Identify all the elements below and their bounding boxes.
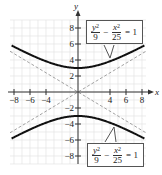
callout-pointer-bottom <box>105 127 116 142</box>
equation-label-bottom: y2 9 − x2 25 = 1 <box>87 143 144 167</box>
svg-text:6: 6 <box>70 39 75 49</box>
svg-text:4: 4 <box>108 95 113 105</box>
x-axis-label: x <box>154 87 159 97</box>
svg-text:8: 8 <box>70 23 75 33</box>
svg-text:−6: −6 <box>64 135 74 145</box>
y-axis-label: y <box>73 1 78 11</box>
minus-sign: − <box>104 150 109 160</box>
equals-one: = 1 <box>126 150 138 160</box>
svg-text:−4: −4 <box>64 119 74 129</box>
equals-one: = 1 <box>125 27 137 37</box>
svg-text:4: 4 <box>70 55 75 65</box>
svg-text:8: 8 <box>140 95 145 105</box>
svg-text:−2: −2 <box>64 103 74 113</box>
fraction-x: x2 25 <box>111 23 122 42</box>
svg-text:−8: −8 <box>9 95 19 105</box>
svg-text:−8: −8 <box>64 151 74 161</box>
minus-sign: − <box>103 27 108 37</box>
svg-text:2: 2 <box>70 71 75 81</box>
fraction-y: y2 9 <box>91 23 100 42</box>
fraction-y: y2 9 <box>92 146 101 165</box>
svg-text:−4: −4 <box>41 95 51 105</box>
svg-text:−6: −6 <box>25 95 35 105</box>
fraction-x: x2 25 <box>112 146 123 165</box>
callout-pointer-top <box>104 45 114 58</box>
equation-label-top: y2 9 − x2 25 = 1 <box>86 20 143 44</box>
svg-text:6: 6 <box>124 95 129 105</box>
